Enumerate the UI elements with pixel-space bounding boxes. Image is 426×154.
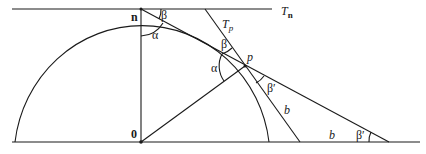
label-n: n: [131, 10, 138, 24]
angle-arc-betaprime-base: [369, 132, 371, 142]
label-tangent-n: Tn: [281, 4, 293, 20]
point-o-dot: [139, 140, 143, 144]
diagram-svg: n 0 p Tn Tp α β α β β′ β′ b b: [0, 0, 426, 154]
label-o: 0: [131, 127, 137, 141]
label-tangent-p: Tp: [222, 17, 234, 33]
label-beta-p: β: [221, 37, 227, 51]
tangent-line-p: [205, 9, 300, 142]
label-b-base: b: [329, 128, 335, 142]
label-beta-n: β: [161, 8, 167, 22]
radius-op: [141, 66, 245, 142]
label-b-slant: b: [284, 103, 290, 117]
angle-arc-betaprime-p: [256, 76, 264, 83]
label-p: p: [246, 50, 253, 64]
circle-arc: [15, 26, 269, 142]
label-betaprime-base: β′: [356, 128, 365, 142]
label-alpha-p: α: [211, 61, 218, 75]
point-n-dot: [140, 8, 143, 11]
label-alpha-n: α: [152, 28, 159, 42]
point-p-dot: [244, 65, 247, 68]
geometry-diagram: n 0 p Tn Tp α β α β β′ β′ b b: [0, 0, 426, 154]
label-betaprime-p: β′: [267, 81, 276, 95]
angle-arc-alpha-p: [219, 54, 224, 81]
